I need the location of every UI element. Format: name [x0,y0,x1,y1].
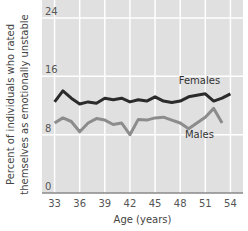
y-tick-label: 0 [45,181,51,192]
y-axis-label: Percent of individuals who ratedthemselv… [5,14,30,194]
y-tick-label: 8 [45,123,51,134]
x-tick-label: 51 [199,198,212,209]
x-tick-label: 36 [73,198,86,209]
x-tick-label: 48 [174,198,187,209]
series-label-males: Males [185,129,214,140]
x-tick-label: 39 [98,198,111,209]
x-tick-label: 42 [124,198,137,209]
series-label-females: Females [179,75,220,86]
x-tick-label: 54 [224,198,237,209]
x-tick-label: 33 [48,198,61,209]
y-tick-label: 16 [45,64,58,75]
y-axis-label-line: Percent of individuals who rated [5,24,16,185]
x-axis-label: Age (years) [114,214,172,225]
x-axis-ticks: 3336394245485154 [48,198,237,209]
plot-area [42,0,243,193]
y-tick-label: 24 [45,6,58,17]
y-axis-label-line: themselves as emotionally unstable [19,14,30,194]
line-chart: 081624 3336394245485154 FemalesMales Age… [0,0,248,231]
x-tick-label: 45 [149,198,162,209]
